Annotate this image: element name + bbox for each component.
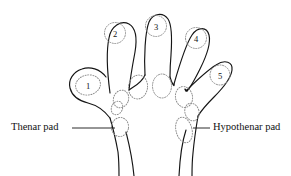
ring-finger-outline (174, 29, 209, 91)
index-finger-outline (107, 23, 135, 93)
digit-number-5: 5 (218, 71, 222, 81)
little-finger-outline (186, 62, 232, 116)
hand-pads-figure: 12345 Thenar pad Hypothenar pad (0, 0, 291, 176)
palm-right-border (192, 116, 198, 176)
digit-number-3: 3 (154, 22, 158, 32)
web-notch-index-middle (129, 75, 145, 90)
interdigital-pad-b (153, 74, 172, 98)
hand-outline-group (70, 14, 233, 176)
digit-number-4: 4 (194, 34, 199, 44)
interdigital-pad-f (109, 99, 125, 116)
digit-number-2: 2 (113, 29, 117, 39)
interdigital-pad-d (111, 88, 132, 110)
dotted-pads-layer (74, 16, 230, 145)
hand-diagram-svg: 12345 (0, 0, 291, 176)
interdigital-pad-e (183, 101, 202, 122)
thumb-outline (70, 68, 110, 118)
digit-number-1: 1 (86, 81, 90, 91)
hypothenar-pad-label: Hypothenar pad (213, 122, 280, 133)
hypothenar-pad-ellipse (173, 115, 195, 144)
thenar-pad-label: Thenar pad (11, 122, 59, 133)
interdigital-pad-c (174, 85, 195, 109)
wrist-crease-left (126, 132, 134, 176)
wrist-crease-right (179, 130, 186, 176)
web-notch-ring-little (185, 89, 187, 91)
